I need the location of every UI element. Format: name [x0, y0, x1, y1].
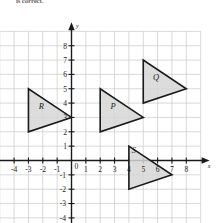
triangles	[28, 60, 186, 189]
y-tick-label: 2	[63, 128, 67, 137]
x-tick-label: -3	[25, 165, 31, 174]
y-axis-label: y	[75, 23, 79, 29]
triangle-label-p: P	[110, 101, 116, 111]
triangle-q	[143, 60, 186, 103]
y-tick-label: 4	[63, 99, 67, 108]
y-tick-label: 5	[63, 85, 67, 94]
y-tick-label: 6	[63, 70, 67, 79]
triangle-label-q: Q	[153, 72, 159, 82]
x-tick-label: -4	[11, 165, 17, 174]
y-tick-label: 7	[63, 56, 67, 65]
x-tick-label: -2	[40, 165, 46, 174]
triangle-label-r: R	[38, 101, 45, 111]
y-tick-label: -4	[60, 214, 66, 223]
x-tick-label: 7	[170, 165, 174, 174]
x-tick-label: 2	[98, 165, 102, 174]
x-axis-label: x	[207, 163, 211, 169]
x-tick-label: 8	[184, 165, 188, 174]
x-tick-label: 5	[141, 165, 145, 174]
figure-root: is correct. -4-3-2-11234567887654321-1-2…	[0, 0, 219, 223]
coordinate-plane: -4-3-2-11234567887654321-1-2-3-40xy RPQS	[0, 8, 219, 223]
y-tick-label: -3	[60, 199, 66, 208]
origin-label: 0	[75, 162, 79, 171]
y-tick-label: 8	[63, 42, 67, 51]
x-tick-label: 4	[127, 165, 131, 174]
y-tick-label: 3	[63, 113, 67, 122]
x-tick-label: 6	[156, 165, 160, 174]
y-tick-label: -2	[60, 185, 66, 194]
y-tick-label: -1	[60, 171, 66, 180]
cropped-top-note: is correct.	[16, 0, 136, 6]
y-axis-arrowhead	[68, 22, 74, 30]
triangle-label-s: S	[132, 145, 137, 155]
x-tick-label: 3	[113, 165, 117, 174]
y-tick-label: 1	[63, 142, 67, 151]
x-tick-label: 1	[84, 165, 88, 174]
triangle-p	[100, 89, 143, 132]
coordinate-plane-svg: -4-3-2-11234567887654321-1-2-3-40xy RPQS	[0, 8, 219, 223]
triangle-r	[28, 89, 71, 132]
